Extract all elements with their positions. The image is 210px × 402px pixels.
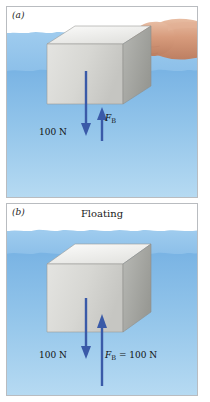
- weight-label-a-text: 100 N: [39, 127, 67, 137]
- block-a: [45, 25, 153, 105]
- panel-b-waterline-far: [7, 228, 197, 233]
- panel-b-label: (b): [12, 207, 25, 217]
- weight-arrow-b: [79, 298, 93, 360]
- buoyancy-figure: 100 N FB (a): [0, 0, 210, 402]
- buoyant-subscript-a: B: [111, 117, 116, 125]
- weight-label-b-text: 100 N: [39, 350, 67, 360]
- panel-a-label: (a): [12, 10, 24, 20]
- weight-label-a: 100 N: [39, 127, 67, 137]
- weight-label-b: 100 N: [39, 350, 67, 360]
- buoyant-subscript-b: B: [111, 354, 116, 362]
- floating-caption: Floating: [7, 208, 197, 219]
- panel-a: 100 N FB (a): [6, 6, 198, 198]
- buoyant-label-b: FB = 100 N: [105, 350, 157, 360]
- weight-arrow-a: [79, 71, 93, 137]
- buoyant-label-a: FB: [105, 113, 116, 123]
- buoyant-suffix-b: = 100 N: [116, 350, 157, 360]
- panel-b: 100 N FB = 100 N Floating (b): [6, 203, 198, 396]
